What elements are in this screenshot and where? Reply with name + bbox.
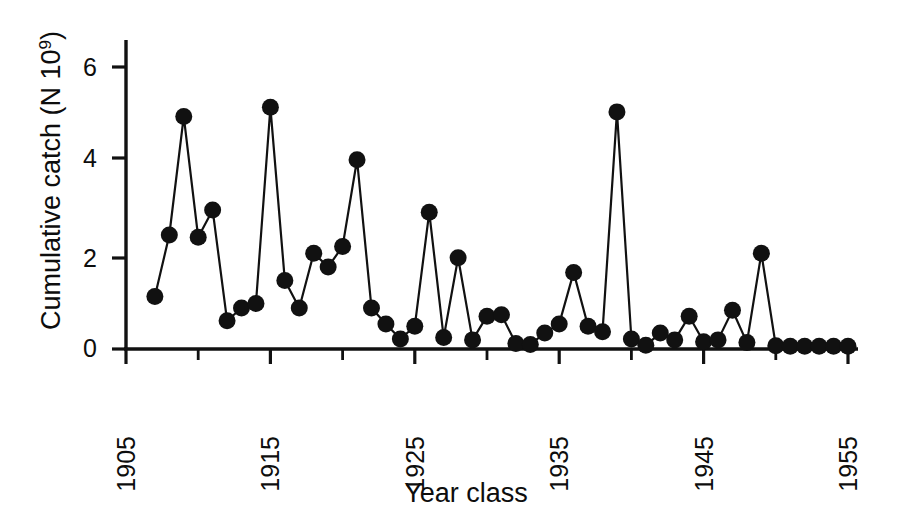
data-point <box>681 308 698 325</box>
data-point <box>724 302 741 319</box>
data-point <box>377 315 394 332</box>
data-point <box>320 258 337 275</box>
chart-figure: Cumulative catch (N 109) 0 2 4 6 1905191… <box>0 0 908 519</box>
y-tick-label-2: 2 <box>83 244 97 272</box>
data-point <box>262 99 279 116</box>
data-point <box>421 204 438 221</box>
data-point <box>247 295 264 312</box>
data-point <box>580 318 597 335</box>
data-point <box>753 245 770 262</box>
data-point <box>190 229 207 246</box>
data-point <box>464 331 481 348</box>
data-point <box>767 337 784 354</box>
data-point <box>493 306 510 323</box>
svg-text:Cumulative catch (N 109): Cumulative catch (N 109) <box>36 31 66 330</box>
data-point <box>522 336 539 353</box>
data-point <box>565 264 582 281</box>
x-tick-label-1945: 1945 <box>690 436 718 492</box>
data-point <box>334 238 351 255</box>
x-tick-label-1905: 1905 <box>112 436 140 492</box>
data-point <box>349 151 366 168</box>
data-point <box>161 227 178 244</box>
data-point <box>435 329 452 346</box>
data-point <box>608 103 625 120</box>
data-point <box>219 312 236 329</box>
data-point <box>594 323 611 340</box>
data-point <box>536 325 553 342</box>
data-point <box>666 331 683 348</box>
data-point <box>623 330 640 347</box>
data-point <box>363 299 380 316</box>
x-axis-label: Year class <box>404 478 528 508</box>
y-axis-label-suffix: ) <box>36 31 66 40</box>
data-point <box>291 299 308 316</box>
data-point <box>695 333 712 350</box>
data-point <box>479 308 496 325</box>
data-point <box>450 249 467 266</box>
y-axis-label: Cumulative catch (N 109) <box>36 31 66 330</box>
data-point <box>738 334 755 351</box>
data-point <box>507 335 524 352</box>
x-tick-label-1915: 1915 <box>256 436 284 492</box>
data-point <box>551 315 568 332</box>
data-point <box>710 331 727 348</box>
y-axis-label-prefix: Cumulative catch (N 10 <box>36 49 66 330</box>
data-point <box>406 318 423 335</box>
data-point <box>840 338 857 355</box>
data-point <box>305 245 322 262</box>
data-point <box>233 299 250 316</box>
y-tick-label-6: 6 <box>83 53 97 81</box>
data-point <box>276 272 293 289</box>
data-point <box>392 330 409 347</box>
y-tick-label-0: 0 <box>83 334 97 362</box>
x-tick-label-1935: 1935 <box>545 436 573 492</box>
data-point <box>204 201 221 218</box>
data-point <box>652 325 669 342</box>
data-point <box>146 288 163 305</box>
cumulative-catch-line-chart: Cumulative catch (N 109) 0 2 4 6 1905191… <box>0 0 908 519</box>
data-point <box>637 337 654 354</box>
data-point <box>175 108 192 125</box>
x-tick-label-1955: 1955 <box>834 436 862 492</box>
y-tick-label-4: 4 <box>83 144 97 172</box>
y-axis-label-exponent: 9 <box>36 40 55 49</box>
